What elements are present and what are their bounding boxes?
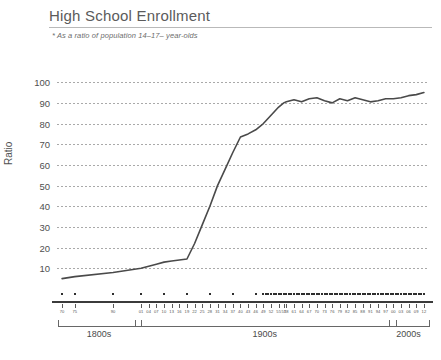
x-axis-tick-mark: [393, 304, 394, 308]
x-axis-tick-mark: [172, 304, 173, 308]
x-axis-tick-label: 10: [162, 309, 167, 314]
x-axis-tick-label: 07: [154, 309, 159, 314]
x-axis-tick-label: 91: [368, 309, 373, 314]
x-axis-tick-mark: [286, 304, 287, 308]
x-axis-tick-label: 04: [146, 309, 151, 314]
x-axis-tick-mark: [363, 304, 364, 308]
x-axis-tick-label: 13: [169, 309, 174, 314]
y-axis-title: Ratio: [3, 142, 14, 165]
x-axis-tick-label: 03: [399, 309, 404, 314]
x-axis-tick-mark: [187, 304, 188, 308]
x-axis-tick-mark: [225, 304, 226, 308]
x-axis-tick-mark: [62, 304, 63, 308]
x-axis-tick-mark: [401, 304, 402, 308]
y-axis-tick-label: 60: [24, 159, 50, 170]
x-axis-tick-label: 58: [284, 309, 289, 314]
x-axis-tick-label: 01: [139, 309, 144, 314]
x-axis-tick-mark: [141, 304, 142, 308]
x-axis-tick-label: 85: [353, 309, 358, 314]
x-axis-tick-labels: 7075900104071013161922252831343740434649…: [57, 309, 429, 319]
x-axis-tick-label: 52: [269, 309, 274, 314]
x-axis-tick-label: 79: [337, 309, 342, 314]
chart-header: High School Enrollment * As a ratio of p…: [0, 0, 441, 50]
x-axis-tick-mark: [156, 304, 157, 308]
x-axis-tick-label: 55: [276, 309, 281, 314]
x-axis-tick-label: 06: [406, 309, 411, 314]
data-point-marker: [112, 293, 114, 295]
x-axis-tick-mark: [294, 304, 295, 308]
x-axis-tick-mark: [279, 304, 280, 308]
x-axis-tick-label: 88: [360, 309, 365, 314]
era-label: 1900s: [252, 329, 277, 339]
x-axis-tick-mark: [75, 304, 76, 308]
era-bracket: [389, 320, 430, 327]
x-axis-tick-mark: [317, 304, 318, 308]
x-axis-tick-label: 70: [314, 309, 319, 314]
y-axis-tick-label: 90: [24, 97, 50, 108]
data-point-marker: [255, 293, 257, 295]
x-axis-tick-mark: [370, 304, 371, 308]
data-point-marker: [423, 293, 425, 295]
x-axis-tick-mark: [325, 304, 326, 308]
y-axis-tick-label: 50: [24, 180, 50, 191]
y-axis-tick-label: 80: [24, 118, 50, 129]
x-axis-tick-label: 28: [207, 309, 212, 314]
chart-subtitle: * As a ratio of population 14–17– year-o…: [52, 31, 198, 40]
x-axis-tick-mark: [332, 304, 333, 308]
x-axis-tick-label: 40: [238, 309, 243, 314]
x-axis-tick-label: 31: [215, 309, 220, 314]
x-axis-tick-label: 64: [299, 309, 304, 314]
data-point-marker: [74, 293, 76, 295]
title-divider: [49, 27, 432, 28]
x-axis-tick-label: 82: [345, 309, 350, 314]
page-title: High School Enrollment: [49, 7, 210, 24]
x-axis-tick-mark: [179, 304, 180, 308]
x-axis-tick-mark: [284, 304, 285, 308]
x-axis-tick-label: 34: [223, 309, 228, 314]
x-axis-tick-mark: [248, 304, 249, 308]
x-axis-tick-mark: [302, 304, 303, 308]
x-axis-tick-label: 46: [253, 309, 258, 314]
x-axis-tick-mark: [210, 304, 211, 308]
x-axis-tick-mark: [340, 304, 341, 308]
x-axis-tick-label: 61: [292, 309, 297, 314]
data-point-marker: [209, 293, 211, 295]
x-axis-tick-label: 16: [177, 309, 182, 314]
y-axis-tick-label: 10: [24, 263, 50, 274]
x-axis-line: [52, 301, 433, 303]
x-axis-tick-label: 09: [414, 309, 419, 314]
plot-area: 102030405060708090100: [57, 76, 429, 289]
x-axis-tick-label: 90: [111, 309, 116, 314]
x-axis-tick-label: 22: [192, 309, 197, 314]
x-axis-tick-mark: [256, 304, 257, 308]
y-axis-tick-label: 100: [24, 77, 50, 88]
x-axis-tick-label: 75: [72, 309, 77, 314]
data-point-marker: [232, 293, 234, 295]
x-axis-tick-mark: [416, 304, 417, 308]
era-bracket: [58, 320, 142, 327]
x-axis-tick-mark: [218, 304, 219, 308]
era-bracket: [135, 320, 397, 327]
x-axis-tick-mark: [347, 304, 348, 308]
x-axis-tick-mark: [378, 304, 379, 308]
data-point-marker: [186, 293, 188, 295]
x-axis-tick-mark: [195, 304, 196, 308]
chart-figure: High School Enrollment * As a ratio of p…: [0, 0, 441, 360]
data-marker-row: [57, 291, 429, 298]
x-axis-tick-mark: [424, 304, 425, 308]
era-label: 1800s: [87, 329, 112, 339]
x-axis-tick-label: 37: [230, 309, 235, 314]
x-axis-tick-label: 43: [246, 309, 251, 314]
x-axis-tick-label: 94: [376, 309, 381, 314]
data-line-series: [57, 76, 429, 289]
x-axis-tick-mark: [355, 304, 356, 308]
x-axis-tick-mark: [113, 304, 114, 308]
x-axis-tick-mark: [386, 304, 387, 308]
x-axis-tick-mark: [202, 304, 203, 308]
x-axis-tick-mark: [263, 304, 264, 308]
x-axis-tick-mark: [271, 304, 272, 308]
x-axis-tick-mark: [409, 304, 410, 308]
y-axis-tick-label: 30: [24, 221, 50, 232]
x-axis-tick-label: 73: [322, 309, 327, 314]
era-label: 2000s: [396, 329, 421, 339]
